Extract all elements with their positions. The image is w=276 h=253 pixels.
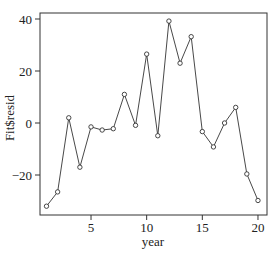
x-axis: 5101520 [88,215,265,235]
data-point-marker [100,128,104,132]
data-point-marker [111,127,115,131]
y-tick-label: 20 [19,64,32,79]
data-point-marker [189,34,193,38]
x-tick-label: 10 [140,220,153,235]
data-point-marker [55,190,59,194]
x-axis-label: year [142,234,165,249]
plot-frame [40,13,267,215]
chart: −2002040 5101520 year Fit$resid [0,0,276,253]
y-axis-label: Fit$resid [2,94,17,141]
y-tick-label: −20 [12,168,32,183]
data-point-marker [222,121,226,125]
data-point-marker [44,204,48,208]
data-points [44,19,260,209]
data-point-marker [211,145,215,149]
data-point-marker [234,105,238,109]
data-point-marker [89,125,93,129]
x-tick-label: 15 [196,220,209,235]
x-tick-label: 5 [88,220,95,235]
data-point-marker [245,172,249,176]
data-point-marker [178,61,182,65]
data-point-marker [167,19,171,23]
data-point-marker [122,92,126,96]
y-tick-label: 0 [26,116,33,131]
data-point-marker [144,52,148,56]
data-point-marker [78,165,82,169]
data-point-marker [156,134,160,138]
data-point-marker [67,116,71,120]
series-line [47,21,258,206]
data-point-marker [200,129,204,133]
data-point-marker [133,123,137,127]
y-tick-label: 40 [19,12,32,27]
x-tick-label: 20 [251,220,264,235]
data-point-marker [256,198,260,202]
